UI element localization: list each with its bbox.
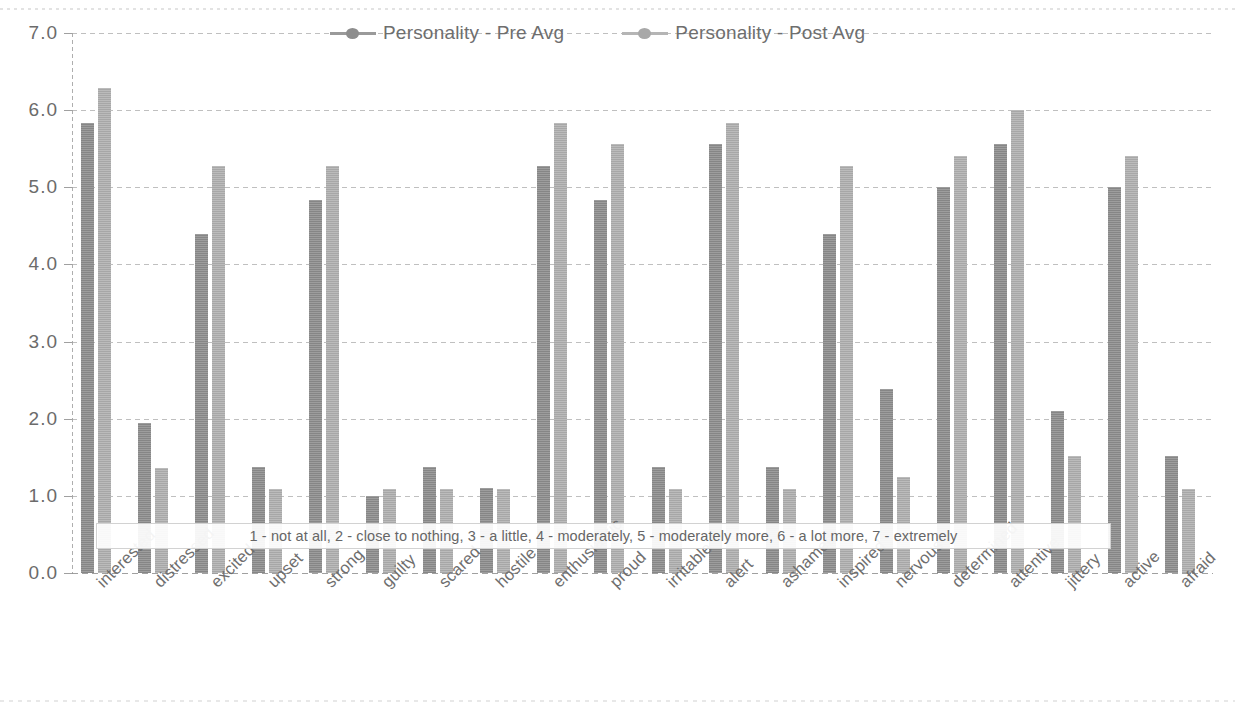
bar-pre[interactable]: [937, 187, 950, 573]
y-axis-tick-label: 4.0: [14, 254, 58, 273]
legend-marker-pre-icon: [330, 27, 376, 39]
y-axis-tick-label: 5.0: [14, 177, 58, 196]
gridline: [72, 573, 1213, 574]
scale-legend-note: 1 - not at all, 2 - close to nothing, 3 …: [96, 523, 1111, 549]
bar-group: [1156, 33, 1213, 573]
bar-pre[interactable]: [81, 123, 94, 574]
x-axis-labels: interesteddistressedexcitedupsetstronggu…: [72, 578, 1213, 703]
bar-group: [585, 33, 642, 573]
bar-group: [186, 33, 243, 573]
bar-post[interactable]: [554, 123, 567, 574]
y-axis-tick-label: 1.0: [14, 486, 58, 505]
bar-pre[interactable]: [1165, 456, 1178, 573]
bar-pre[interactable]: [537, 166, 550, 573]
bar-group: [871, 33, 928, 573]
panas-grouped-bar-chart: Personality - Pre Avg Personality - Post…: [0, 0, 1235, 709]
y-axis-tick-label: 3.0: [14, 332, 58, 351]
bar-post[interactable]: [726, 123, 739, 574]
bar-pre[interactable]: [652, 467, 665, 573]
bar-post[interactable]: [1125, 156, 1138, 573]
y-axis-tick-label: 6.0: [14, 100, 58, 119]
plot-area: [72, 33, 1213, 573]
bar-pre[interactable]: [594, 200, 607, 573]
bar-group: [129, 33, 186, 573]
bar-post[interactable]: [954, 156, 967, 573]
chart-legend: Personality - Pre Avg Personality - Post…: [330, 22, 865, 44]
bar-group: [1042, 33, 1099, 573]
bar-group: [985, 33, 1042, 573]
bar-group: [814, 33, 871, 573]
legend-item-pre[interactable]: Personality - Pre Avg: [330, 22, 564, 44]
bar-group: [243, 33, 300, 573]
bar-group: [700, 33, 757, 573]
bar-group: [757, 33, 814, 573]
legend-label-post: Personality - Post Avg: [675, 22, 865, 44]
legend-marker-post-icon: [622, 27, 668, 39]
bar-group: [471, 33, 528, 573]
bar-post[interactable]: [1068, 456, 1081, 573]
bar-group: [928, 33, 985, 573]
bar-post[interactable]: [155, 468, 168, 573]
bar-pre[interactable]: [709, 144, 722, 573]
bar-post[interactable]: [1011, 110, 1024, 573]
legend-item-post[interactable]: Personality - Post Avg: [622, 22, 865, 44]
y-axis-tick-label: 2.0: [14, 409, 58, 428]
y-axis-tick-label: 0.0: [14, 563, 58, 582]
bar-pre[interactable]: [994, 144, 1007, 573]
bar-post[interactable]: [840, 166, 853, 573]
bar-group: [300, 33, 357, 573]
bar-pre[interactable]: [766, 467, 779, 573]
bar-post[interactable]: [98, 88, 111, 573]
y-axis-tick-label: 7.0: [14, 23, 58, 42]
bar-post[interactable]: [611, 144, 624, 573]
bar-group: [72, 33, 129, 573]
bar-group: [643, 33, 700, 573]
legend-label-pre: Personality - Pre Avg: [383, 22, 564, 44]
bar-pre[interactable]: [423, 467, 436, 573]
bar-pre[interactable]: [1108, 187, 1121, 573]
bar-pre[interactable]: [309, 200, 322, 573]
bar-group: [1099, 33, 1156, 573]
bar-post[interactable]: [326, 166, 339, 573]
bar-group: [357, 33, 414, 573]
bar-group: [528, 33, 585, 573]
bar-post[interactable]: [212, 166, 225, 573]
bar-group: [414, 33, 471, 573]
